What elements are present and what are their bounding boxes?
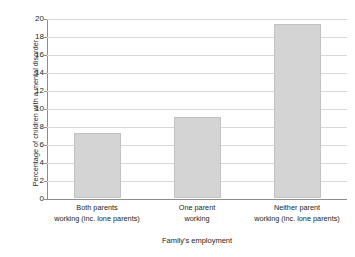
gridline xyxy=(47,19,347,20)
y-axis-tick-label: 14 xyxy=(24,69,44,77)
y-axis-tick-label: 6 xyxy=(24,141,44,149)
x-axis-tick-label: Both parentsworking (inc. lone parents) xyxy=(47,203,147,224)
x-axis-tick-label-line: working xyxy=(147,214,247,225)
bar xyxy=(274,24,321,198)
x-axis-tick-label-line: Neither parent xyxy=(247,203,347,214)
y-axis-tick-mark xyxy=(44,55,47,56)
y-axis-tick-mark xyxy=(44,181,47,182)
bar xyxy=(74,133,121,198)
y-axis-tick-label: 4 xyxy=(24,159,44,167)
y-axis-tick-label: 16 xyxy=(24,51,44,59)
y-axis-tick-mark xyxy=(44,145,47,146)
y-axis-tick-labels: 02468101214161820 xyxy=(24,0,44,257)
y-axis-tick-label: 12 xyxy=(24,87,44,95)
x-axis-tick-label: One parentworking xyxy=(147,203,247,224)
y-axis-tick-label: 8 xyxy=(24,123,44,131)
y-axis-tick-mark xyxy=(44,127,47,128)
y-axis-tick-label: 2 xyxy=(24,177,44,185)
y-axis-tick-label: 20 xyxy=(24,15,44,23)
y-axis-tick-label: 18 xyxy=(24,33,44,41)
y-axis-tick-mark xyxy=(44,163,47,164)
y-axis-tick-label: 0 xyxy=(24,195,44,203)
x-axis-title: Family's employment xyxy=(47,236,347,246)
x-axis-line xyxy=(47,199,347,200)
y-axis-tick-mark xyxy=(44,199,47,200)
plot-area xyxy=(47,19,347,199)
y-axis-tick-label: 10 xyxy=(24,105,44,113)
x-axis-tick-label-line: working (inc. lone parents) xyxy=(247,214,347,225)
x-axis-tick-label-line: Both parents xyxy=(47,203,147,214)
y-axis-tick-mark xyxy=(44,19,47,20)
x-axis-tick-label: Neither parentworking (inc. lone parents… xyxy=(247,203,347,224)
y-axis-tick-mark xyxy=(44,73,47,74)
y-axis-tick-mark xyxy=(44,109,47,110)
x-axis-tick-labels: Both parentsworking (inc. lone parents)O… xyxy=(47,203,347,231)
bar-chart: Percentage of children with a mental dis… xyxy=(0,0,355,257)
x-axis-tick-label-line: One parent xyxy=(147,203,247,214)
x-axis-tick-label-line: working (inc. lone parents) xyxy=(47,214,147,225)
bar xyxy=(174,117,221,198)
y-axis-tick-mark xyxy=(44,91,47,92)
y-axis-tick-mark xyxy=(44,37,47,38)
